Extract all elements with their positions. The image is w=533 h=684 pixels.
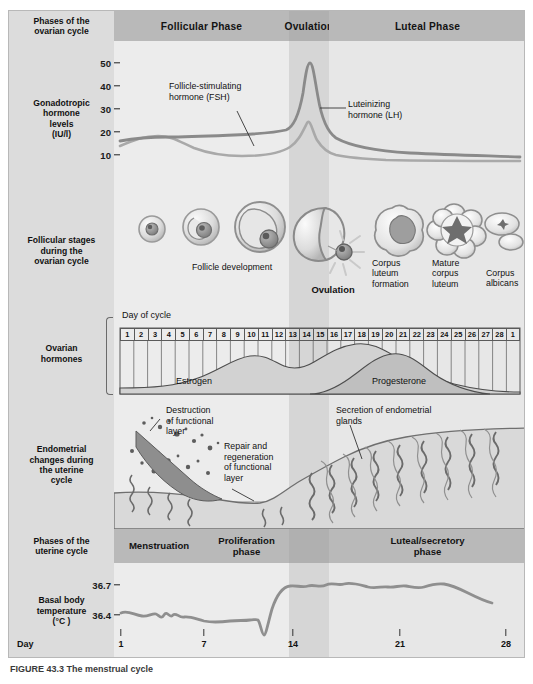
follicle-stage-4-ovulation-icon: [294, 208, 364, 275]
label-progesterone: Progesterone: [372, 376, 426, 386]
label-phases-uterine-cycle: Phases of the uterine cycle: [9, 529, 114, 563]
bbt-ytick-36-7: 36.7: [92, 580, 111, 591]
follicular-stages-row: Follicle development Ovulation Corpus lu…: [114, 196, 524, 306]
band-proliferation-phase-label: Proliferation phase: [218, 535, 275, 557]
mature-corpus-luteum-icon: [427, 204, 486, 258]
gonado-ytick-20: 20: [100, 127, 111, 138]
band-ovulation-label: Ovulation: [285, 21, 334, 32]
label-corpus-albicans: Corpus albicans: [486, 268, 525, 289]
annotation-destruction-of-functional-layer: Destruction of functional layer: [166, 405, 213, 437]
bbt-curve-svg: [114, 563, 525, 658]
label-endometrial-changes: Endometrial changes during the uterine c…: [9, 401, 114, 529]
endometrial-changes-row: Destruction of functional layer Repair a…: [114, 401, 524, 529]
band-ovulation: Ovulation: [289, 11, 329, 41]
band-luteal-phase: Luteal Phase: [329, 11, 525, 41]
corpus-luteum-formation-icon: [375, 206, 424, 257]
follicle-stage-2-icon: [183, 209, 219, 245]
figure-caption: FIGURE 43.3 The menstrual cycle: [10, 664, 153, 674]
label-gonadotropic-hormone-levels: Gonadotropic hormone levels (IU/l): [9, 41, 114, 196]
follicle-stage-3-icon: [235, 202, 285, 252]
bbt-ytick-36-4: 36.4: [92, 610, 111, 621]
gonado-ytick-40: 40: [100, 81, 111, 92]
band-follicular-phase: Follicular Phase: [114, 11, 289, 41]
bbt-xtick-7: 7: [201, 639, 206, 649]
ovarian-hormones-brace: [106, 317, 113, 395]
gonado-ytick-30: 30: [100, 104, 111, 115]
annotation-lh: Luteinizing hormone (LH): [348, 99, 402, 121]
bbt-xtick-21: 21: [395, 639, 405, 649]
gonadotropic-chart: 50 40 30 20 10 Follicle-stimulating horm: [114, 41, 524, 196]
gonado-ytick-50: 50: [100, 58, 111, 69]
label-ovarian-hormones: Ovarian hormones: [9, 306, 114, 401]
follicle-stage-1-icon: [139, 216, 165, 242]
bbt-xtick-1: 1: [118, 639, 123, 649]
corpus-albicans-icon: [485, 213, 523, 250]
label-follicle-development: Follicle development: [172, 262, 292, 272]
bbt-xtick-mark-14: [292, 629, 293, 636]
bbt-xtick-mark-1: [120, 629, 121, 636]
band-menstruation-label: Menstruation: [129, 540, 189, 551]
bbt-xtick-mark-21: [399, 629, 400, 636]
label-phases-ovarian-cycle: Phases of the ovarian cycle: [9, 11, 114, 41]
destruction-leader-line: [150, 419, 160, 431]
band-proliferation-phase: Proliferation phase: [204, 529, 289, 563]
fsh-leader-line: [237, 111, 254, 146]
annotation-secretion-of-endometrial-glands: Secretion of endometrial glands: [336, 405, 431, 426]
gonado-ytick-10: 10: [100, 150, 111, 161]
phases-ovarian-row: Follicular Phase Ovulation Luteal Phase: [114, 11, 524, 41]
annotation-repair-and-regeneration: Repair and regeneration of functional la…: [224, 441, 273, 483]
label-mature-corpus-luteum: Mature corpus luteum: [432, 258, 484, 289]
bbt-xtick-mark-28: [505, 629, 506, 636]
band-luteal-secretory-phase-label: Luteal/secretory phase: [390, 535, 464, 557]
band-uterine-ovulation: [289, 529, 329, 563]
band-luteal-phase-label: Luteal Phase: [395, 21, 460, 32]
bbt-xtick-mark-7: [203, 629, 204, 636]
band-follicular-phase-label: Follicular Phase: [161, 21, 242, 32]
estrogen-area: [120, 344, 520, 394]
menstrual-cycle-figure: Phases of the ovarian cycle Follicular P…: [8, 10, 525, 658]
bbt-curve: [121, 583, 492, 635]
band-luteal-secretory-phase: Luteal/secretory phase: [329, 529, 525, 563]
bbt-axis-label-day: Day: [17, 639, 34, 649]
figure-page: Phases of the ovarian cycle Follicular P…: [0, 0, 533, 684]
label-ovulation-stage: Ovulation: [296, 284, 370, 295]
repair-leader-line: [232, 489, 254, 501]
label-estrogen: Estrogen: [176, 376, 212, 386]
gonado-curves: [114, 41, 525, 196]
phases-uterine-row: Menstruation Proliferation phase Luteal/…: [114, 529, 524, 563]
band-menstruation: Menstruation: [114, 529, 204, 563]
basal-body-temperature-chart: 36.7 36.4 1 7 14 21 28: [114, 563, 524, 658]
label-corpus-luteum-formation: Corpus luteum formation: [372, 258, 426, 289]
bbt-xtick-14: 14: [288, 639, 298, 649]
annotation-fsh: Follicle-stimulating hormone (FSH): [169, 81, 241, 103]
bbt-xtick-28: 28: [501, 639, 511, 649]
label-follicular-stages: Follicular stages during the ovarian cyc…: [9, 196, 114, 306]
ovarian-hormone-curves: [114, 306, 525, 401]
ovarian-hormones-chart: Day of cycle 123456789101112131415161718…: [114, 306, 524, 401]
